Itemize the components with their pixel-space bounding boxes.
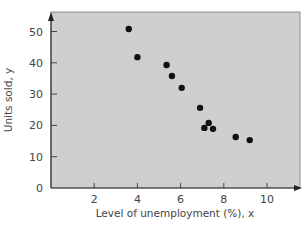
- data-point: [201, 125, 207, 131]
- x-tick-label: 2: [91, 193, 98, 206]
- data-point: [126, 26, 132, 32]
- y-tick-label: 30: [29, 88, 43, 101]
- data-point: [205, 120, 211, 126]
- x-tick-label: 4: [134, 193, 141, 206]
- y-tick-label: 40: [29, 57, 43, 70]
- data-point: [163, 62, 169, 68]
- y-tick-label: 0: [36, 182, 43, 195]
- x-axis-title: Level of unemployment (%), x: [96, 207, 255, 219]
- y-axis-title: Units sold, y: [2, 68, 14, 133]
- plot-area: [51, 12, 300, 188]
- x-tick-label: 6: [177, 193, 184, 206]
- data-point: [247, 137, 253, 143]
- scatter-chart: 246810 01020304050 Level of unemployment…: [0, 0, 305, 230]
- y-tick-label: 10: [29, 151, 43, 164]
- data-point: [210, 126, 216, 132]
- data-point: [169, 73, 175, 79]
- x-tick-label: 10: [260, 193, 274, 206]
- data-point: [197, 105, 203, 111]
- y-tick-label: 50: [29, 26, 43, 39]
- data-point: [134, 54, 140, 60]
- data-point: [178, 85, 184, 91]
- data-point: [232, 134, 238, 140]
- x-tick-label: 8: [220, 193, 227, 206]
- y-tick-label: 20: [29, 119, 43, 132]
